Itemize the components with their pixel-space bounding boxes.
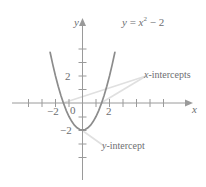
y-axis-label: y bbox=[74, 17, 79, 28]
x-tick-label-pos2: 2 bbox=[106, 106, 112, 117]
y-intercept-rest: -intercept bbox=[106, 140, 144, 151]
equation-label: y = x2 − 2 bbox=[122, 16, 164, 28]
x-intercepts-rest: -intercepts bbox=[148, 69, 190, 80]
y-tick-label-pos2: 2 bbox=[65, 71, 71, 82]
origin-label: 0 bbox=[70, 105, 76, 116]
equation-constant: − 2 bbox=[147, 16, 164, 28]
y-intercept-annotation: y-intercept bbox=[102, 141, 145, 151]
equation-eq: = bbox=[127, 16, 139, 28]
y-axis-arrow bbox=[79, 18, 86, 26]
leader-x-intercept-left bbox=[63, 76, 146, 103]
x-axis-label: x bbox=[192, 104, 197, 115]
x-intercepts-annotation: x-intercepts bbox=[144, 70, 191, 80]
graph-figure: y = x2 − 2 y x 0 −2 2 2 −2 x-intercepts … bbox=[0, 0, 206, 187]
y-tick-label-neg2: −2 bbox=[60, 125, 72, 136]
parabola-plot bbox=[0, 0, 206, 187]
y-axis bbox=[79, 18, 87, 180]
x-tick-label-neg2: −2 bbox=[47, 106, 59, 117]
